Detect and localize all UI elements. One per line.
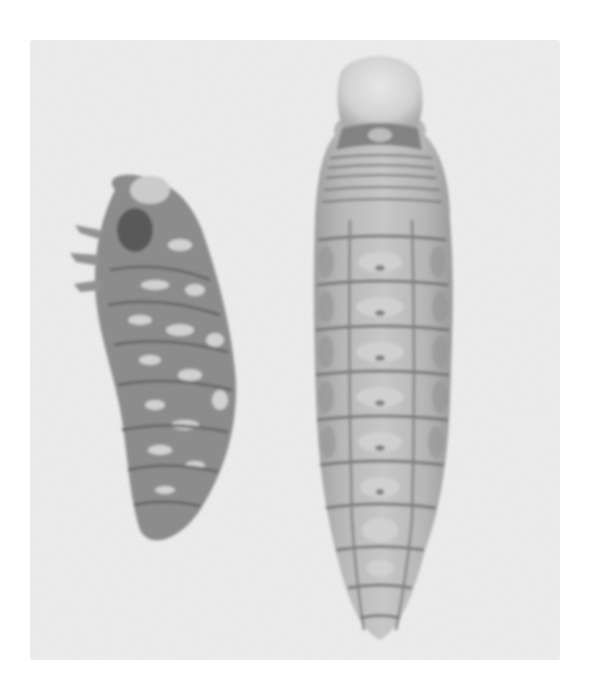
larvae-photo — [30, 40, 560, 660]
photo-panel: Grayscale photograph of two insect larva… — [30, 40, 560, 660]
